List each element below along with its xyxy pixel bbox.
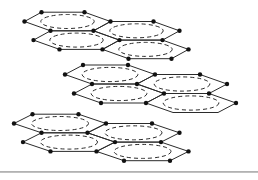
atom-dot [85,131,89,135]
delocalised-electron-ring [105,126,162,140]
atom-dot [99,101,103,105]
delocalised-electron-ring [91,86,147,100]
baseline-rule [0,171,258,173]
delocalised-electron-ring [32,117,89,131]
delocalised-electron-ring [110,24,163,38]
atom-dot [31,38,35,42]
atom-dot [22,19,26,23]
atom-dot [198,72,202,76]
atom-dot [48,29,52,33]
atom-dot [207,91,211,95]
graphite-layer-middle [63,63,238,113]
delocalised-electron-ring [114,144,171,158]
atom-dot [225,82,229,86]
figure-page [0,0,258,180]
atom-dot [126,63,130,67]
atom-dot [159,140,163,144]
delocalised-electron-ring [41,15,94,29]
atom-dot [90,82,94,86]
atom-dot [100,47,104,51]
atom-dot [76,112,80,116]
delocalised-electron-ring [41,135,98,149]
atom-dot [117,38,121,42]
delocalised-electron-ring [163,96,219,110]
atom-dot [186,149,190,153]
atom-dot [135,82,139,86]
delocalised-electron-ring [82,67,138,81]
atom-dot [63,72,67,76]
atom-dot [169,57,173,61]
atom-dot [39,10,43,14]
atom-dot [12,121,16,125]
atom-dot [108,19,112,23]
atom-dot [82,10,86,14]
graphite-layer-top [22,10,190,61]
atom-dot [150,121,154,125]
atom-dot [177,29,181,33]
delocalised-electron-ring [50,33,103,47]
atom-dot [72,91,76,95]
delocalised-electron-ring [119,42,172,56]
atom-dot [162,91,166,95]
atom-dot [153,72,157,76]
atom-dot [151,19,155,23]
atom-dot [48,149,52,153]
atom-dot [57,47,61,51]
atom-dot [126,57,130,61]
atom-dot [104,121,108,125]
atom-dot [91,29,95,33]
graphite-layer-bottom [12,112,191,163]
graphite-layers-diagram [0,0,258,180]
atom-dot [186,47,190,51]
atom-dot [160,38,164,42]
atom-dot [30,112,34,116]
atom-dot [177,131,181,135]
atom-dot [168,159,172,163]
atom-dot [81,63,85,67]
atom-dot [144,101,148,105]
atom-dot [122,159,126,163]
atom-dot [94,149,98,153]
delocalised-electron-ring [154,77,210,91]
atom-dot [21,140,25,144]
atom-dot [113,140,117,144]
atom-dot [234,101,238,105]
atom-dot [39,131,43,135]
